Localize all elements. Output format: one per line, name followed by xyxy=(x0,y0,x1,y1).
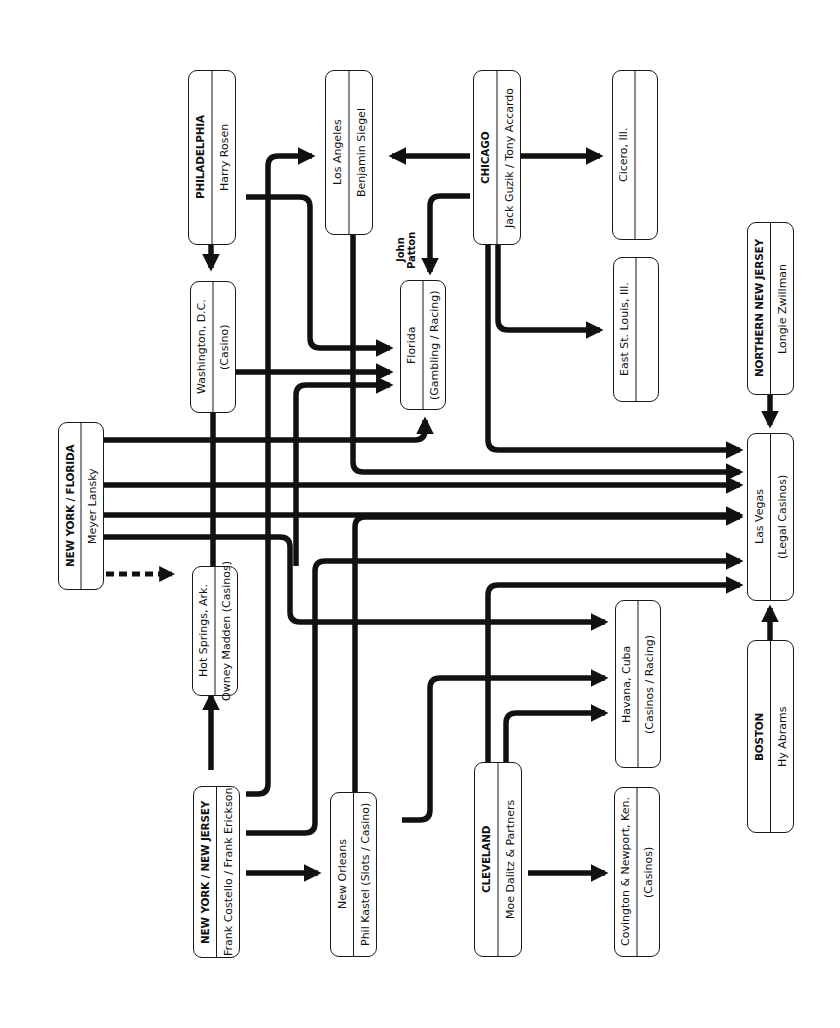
node-las-vegas: Las Vegas (Legal Casinos) xyxy=(747,433,794,601)
organized-crime-gambling-network-diagram: PHILADELPHIA Harry Rosen Los Angeles Ben… xyxy=(0,0,840,1028)
edge-hotsprings-florida-2 xyxy=(296,385,390,566)
node-hotsprings-city: Hot Springs, Ark. xyxy=(193,567,216,695)
node-northernnj-person: Longie Zwillman xyxy=(771,223,793,394)
node-havana: Havana, Cuba (Casinos / Racing) xyxy=(615,600,661,768)
node-havana-city: Havana, Cuba xyxy=(616,601,639,767)
node-philadelphia-city: PHILADELPHIA xyxy=(189,71,213,244)
node-nyfl-person: Meyer Lansky xyxy=(82,423,104,589)
node-cicero-detail xyxy=(636,71,658,239)
node-eaststlouis-detail xyxy=(637,258,659,401)
node-losangeles-city: Los Angeles xyxy=(326,71,350,234)
edge-nyfl-florida xyxy=(104,420,425,440)
node-nynj-city: NEW YORK / NEW JERSEY xyxy=(194,787,217,957)
node-chicago-city: CHICAGO xyxy=(474,71,498,244)
node-havana-detail: (Casinos / Racing) xyxy=(639,601,661,767)
connector-lines xyxy=(0,0,840,1028)
node-northern-new-jersey: NORTHERN NEW JERSEY Longie Zwillman xyxy=(747,222,794,395)
node-florida-city: Florida xyxy=(401,281,424,409)
john-patton-label: John Patton xyxy=(395,230,419,270)
node-cicero: Cicero, Ill. xyxy=(612,70,658,240)
node-los-angeles: Los Angeles Benjamin Siegel xyxy=(325,70,373,235)
node-cleveland-city: CLEVELAND xyxy=(475,763,499,956)
node-hotsprings-person: Owney Madden (Casinos) xyxy=(216,567,238,695)
node-new-orleans: New Orleans Phil Kastel (Slots / Casino) xyxy=(330,792,377,957)
node-covington-detail: (Casinos) xyxy=(638,788,660,956)
edge-cleveland-lasvegas xyxy=(488,585,740,762)
node-hot-springs: Hot Springs, Ark. Owney Madden (Casinos) xyxy=(192,566,238,696)
node-washington: Washington, D.C. (Casino) xyxy=(190,281,236,413)
edge-chicago-florida xyxy=(430,196,470,272)
node-neworleans-city: New Orleans xyxy=(331,793,354,956)
node-washington-detail: (Casino) xyxy=(214,282,236,412)
node-boston-city: BOSTON xyxy=(748,641,771,832)
node-washington-city: Washington, D.C. xyxy=(191,282,214,412)
node-east-st-louis: East St. Louis, Ill. xyxy=(613,257,659,402)
node-nyfl-city: NEW YORK / FLORIDA xyxy=(59,423,82,589)
node-florida-detail: (Gambling / Racing) xyxy=(424,281,446,409)
node-florida: Florida (Gambling / Racing) xyxy=(400,280,446,410)
node-boston: BOSTON Hy Abrams xyxy=(747,640,794,833)
node-philadelphia-person: Harry Rosen xyxy=(213,71,236,244)
node-losangeles-person: Benjamin Siegel xyxy=(350,71,373,234)
node-new-york-florida: NEW YORK / FLORIDA Meyer Lansky xyxy=(58,422,104,590)
node-philadelphia: PHILADELPHIA Harry Rosen xyxy=(188,70,236,245)
node-lasvegas-city: Las Vegas xyxy=(748,434,771,600)
node-lasvegas-detail: (Legal Casinos) xyxy=(771,434,793,600)
node-neworleans-person: Phil Kastel (Slots / Casino) xyxy=(354,793,376,956)
node-covington-city: Covington & Newport, Ken. xyxy=(615,788,638,956)
edge-chicago-eaststlouis xyxy=(498,245,600,330)
node-eaststlouis-city: East St. Louis, Ill. xyxy=(614,258,637,401)
node-northernnj-city: NORTHERN NEW JERSEY xyxy=(748,223,771,394)
node-cleveland: CLEVELAND Moe Dalitz & Partners xyxy=(474,762,522,957)
node-boston-person: Hy Abrams xyxy=(771,641,793,832)
node-new-york-new-jersey: NEW YORK / NEW JERSEY Frank Costello / F… xyxy=(193,786,240,958)
node-covington-newport: Covington & Newport, Ken. (Casinos) xyxy=(614,787,660,957)
node-cicero-city: Cicero, Ill. xyxy=(613,71,636,239)
edge-cleveland-havana xyxy=(506,713,605,762)
node-cleveland-person: Moe Dalitz & Partners xyxy=(499,763,522,956)
node-chicago: CHICAGO Jack Guzik / Tony Accardo xyxy=(473,70,521,245)
edge-nynj-losangeles xyxy=(246,156,312,794)
node-nynj-person: Frank Costello / Frank Erickson xyxy=(217,787,239,957)
node-chicago-person: Jack Guzik / Tony Accardo xyxy=(498,71,521,244)
